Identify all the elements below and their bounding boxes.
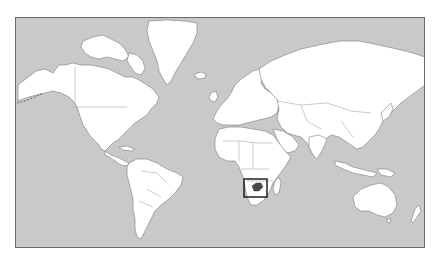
australia [353,183,397,217]
south-america [127,159,183,239]
central-america [105,151,129,166]
india [309,135,327,159]
new-guinea [377,169,395,177]
british-isles [209,91,218,102]
arctic-archipelago [81,35,129,61]
world-map: Zimbabwe locator [15,17,425,248]
tasmania [387,219,391,223]
greenland [147,20,197,85]
new-zealand [411,205,421,223]
baffin-island [127,53,145,75]
iceland [195,72,206,79]
map-canvas [16,18,425,248]
indonesia [335,161,377,177]
cuba [119,146,135,151]
